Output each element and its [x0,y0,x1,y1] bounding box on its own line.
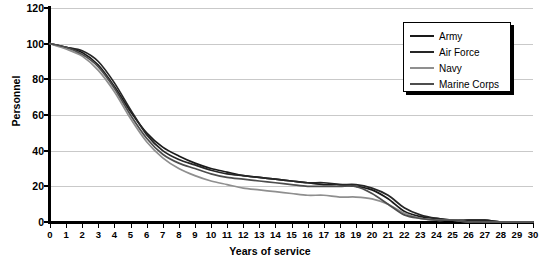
legend-item[interactable]: Air Force [410,44,510,60]
legend-label: Army [439,31,462,42]
legend-color-swatch [410,35,434,37]
legend-label: Marine Corps [439,79,499,90]
legend-item[interactable]: Navy [410,60,510,76]
legend-color-swatch [410,51,434,53]
legend-label: Navy [439,63,462,74]
legend-color-swatch [410,83,434,85]
x-axis-title: Years of service [0,245,540,257]
legend-item[interactable]: Marine Corps [410,76,510,92]
legend: ArmyAir ForceNavyMarine Corps [403,22,511,92]
legend-color-swatch [410,67,434,69]
legend-label: Air Force [439,47,480,58]
legend-item[interactable]: Army [410,28,510,44]
y-axis-title: Personnel [10,61,22,141]
chart-container: 020406080100120 012345678910111213141516… [0,0,540,264]
